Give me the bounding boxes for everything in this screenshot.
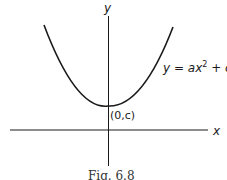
equation-lhs: y = ax bbox=[163, 61, 202, 75]
figure-caption: Fig. 6.8 bbox=[88, 170, 135, 180]
equation-rhs: + c bbox=[207, 61, 227, 75]
y-axis-label: y bbox=[104, 2, 111, 14]
parabola-figure: y x y = ax2 + c (0,c) Fig. 6.8 bbox=[0, 0, 227, 180]
graph-canvas bbox=[0, 0, 227, 180]
x-axis-label: x bbox=[213, 125, 220, 137]
vertex-label: (0,c) bbox=[110, 110, 135, 121]
curve-equation-label: y = ax2 + c bbox=[163, 61, 227, 74]
